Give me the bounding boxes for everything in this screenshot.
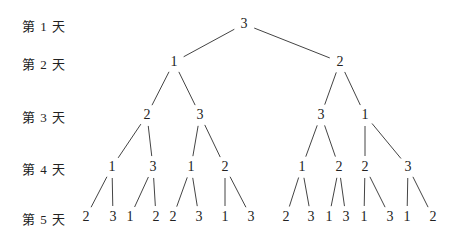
- tree-node-day4-4: 2: [222, 160, 229, 174]
- tree-node-day3-1: 2: [144, 108, 151, 122]
- tree-node-day4-7: 2: [362, 160, 369, 174]
- tree-node-day5-14: 3: [387, 210, 394, 224]
- tree-edge: [205, 125, 220, 157]
- day-label-4: 第 4 天: [22, 159, 66, 178]
- day-label-5: 第 5 天: [22, 209, 66, 228]
- tree-node-day5-12: 3: [343, 210, 350, 224]
- tree-edge: [230, 177, 246, 207]
- tree-node-day5-7: 1: [222, 210, 229, 224]
- tree-edge: [177, 177, 188, 206]
- tree-edge: [372, 123, 401, 158]
- tree-node-day1-1: 3: [241, 17, 248, 31]
- tree-edge: [306, 125, 317, 156]
- tree-node-day5-2: 3: [110, 210, 117, 224]
- tree-edge: [325, 72, 337, 104]
- tree-node-day5-5: 2: [170, 210, 177, 224]
- tree-edge: [91, 177, 107, 207]
- tree-node-day5-15: 1: [404, 210, 411, 224]
- tree-node-day5-3: 1: [127, 210, 134, 224]
- tree-node-day5-6: 3: [196, 210, 203, 224]
- tree-node-day5-9: 2: [283, 210, 290, 224]
- tree-edge: [341, 178, 345, 206]
- tree-edge: [364, 178, 365, 206]
- tree-edge: [331, 178, 337, 206]
- tree-node-day4-8: 3: [405, 160, 412, 174]
- day-label-2: 第 2 天: [22, 54, 66, 73]
- tree-node-day4-5: 1: [299, 160, 306, 174]
- tree-edge: [304, 178, 309, 206]
- tree-edges: [0, 0, 459, 239]
- tree-node-day4-1: 1: [109, 160, 116, 174]
- day-label-3: 第 3 天: [22, 107, 66, 126]
- tree-edge: [193, 178, 198, 206]
- tree-node-day5-8: 3: [248, 210, 255, 224]
- tree-node-day5-1: 2: [83, 210, 90, 224]
- day-label-1: 第 1 天: [22, 16, 66, 35]
- tree-node-day5-4: 2: [153, 210, 160, 224]
- tree-edge: [413, 177, 428, 207]
- tree-edge: [112, 178, 113, 206]
- tree-node-day5-13: 1: [361, 210, 368, 224]
- tree-node-day5-10: 3: [308, 210, 315, 224]
- tree-edge: [254, 28, 330, 58]
- tree-edge: [370, 177, 385, 207]
- tree-node-day4-2: 3: [150, 160, 157, 174]
- tree-edge: [118, 124, 141, 158]
- tree-edge: [135, 177, 149, 207]
- tree-edge: [152, 72, 169, 105]
- tree-node-day2-1: 1: [171, 55, 178, 69]
- tree-edge: [289, 177, 298, 206]
- tree-edge: [184, 29, 235, 57]
- tree-node-day3-2: 3: [197, 108, 204, 122]
- tree-edge: [179, 72, 195, 105]
- tree-edge: [148, 126, 151, 156]
- tree-edge: [154, 178, 156, 206]
- tree-node-day5-11: 1: [326, 210, 333, 224]
- tree-node-day5-16: 2: [430, 210, 437, 224]
- tree-node-day4-3: 1: [188, 160, 195, 174]
- tree-node-day2-2: 2: [337, 55, 344, 69]
- tree-edge: [407, 178, 408, 206]
- tree-node-day4-6: 2: [336, 160, 343, 174]
- tree-edge: [345, 72, 361, 105]
- tree-edge: [325, 125, 336, 156]
- tree-node-day3-3: 3: [318, 108, 325, 122]
- tree-node-day3-4: 1: [362, 108, 369, 122]
- tree-edge: [193, 126, 198, 156]
